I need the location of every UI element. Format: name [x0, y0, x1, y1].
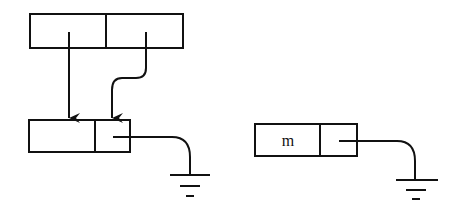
diagram-canvas: m [0, 0, 466, 214]
right-node-value: m [282, 132, 295, 149]
ground-icon [170, 175, 210, 196]
null-pointer-line-right [339, 141, 415, 180]
pointer-arrow-curved [112, 32, 146, 118]
ground-icon [396, 180, 438, 199]
top-pair-node [30, 14, 183, 48]
null-pointer-line-left [113, 137, 190, 175]
